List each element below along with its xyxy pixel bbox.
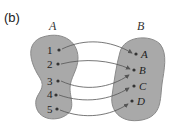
element-1: 1 <box>47 44 53 56</box>
element-5: 5 <box>47 103 53 115</box>
set-b-label: B <box>137 19 145 33</box>
element-2: 2 <box>47 58 53 70</box>
element-B: B <box>139 64 146 76</box>
element-D: D <box>136 95 145 107</box>
element-3: 3 <box>47 75 53 87</box>
set-a-blob <box>31 35 78 119</box>
element-C: C <box>139 80 147 92</box>
set-a-label: A <box>48 19 57 33</box>
function-diagram: (b) A B 1 2 3 4 5 A B C D <box>0 0 175 135</box>
panel-label: (b) <box>4 10 20 25</box>
element-4: 4 <box>47 88 53 100</box>
element-A: A <box>140 48 148 60</box>
